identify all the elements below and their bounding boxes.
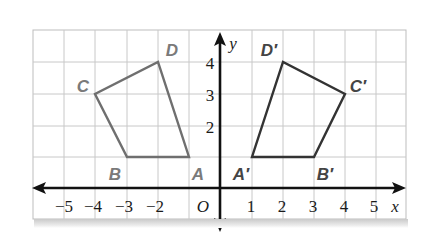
vertex-label-c-prime: C′ (350, 77, 367, 96)
x-tick-label: 1 (247, 197, 256, 216)
x-tick-label: −5 (55, 197, 73, 216)
y-tick-label: 4 (206, 54, 215, 73)
x-tick-label: 5 (370, 197, 379, 216)
y-tick-label: 3 (206, 86, 215, 105)
vertex-label-a: A (191, 165, 204, 184)
x-tick-label: 3 (309, 197, 318, 216)
vertex-label-c: C (77, 77, 90, 96)
grid-shadow (34, 219, 408, 228)
x-tick-label: 4 (340, 197, 349, 216)
coordinate-plane-figure: −5 −4 −3 −2 1 2 3 4 5 2 3 4 x y O A B C … (0, 0, 425, 236)
x-tick-label: −2 (146, 197, 164, 216)
x-axis-label: x (390, 197, 399, 216)
y-axis-label: y (227, 34, 237, 53)
x-tick-label: −4 (84, 197, 103, 216)
vertex-label-d-prime: D′ (261, 41, 278, 60)
x-tick-label: 2 (278, 197, 287, 216)
y-tick-labels: 2 3 4 (206, 54, 215, 137)
vertex-label-a-prime: A′ (232, 165, 250, 184)
vertex-label-b: B (109, 165, 121, 184)
vertex-label-b-prime: B′ (317, 165, 334, 184)
x-tick-label: −3 (115, 197, 133, 216)
vertex-label-d: D (166, 41, 178, 60)
coordinate-plane: −5 −4 −3 −2 1 2 3 4 5 2 3 4 x y O A B C … (0, 0, 425, 236)
origin-label: O (197, 197, 209, 216)
y-tick-label: 2 (206, 118, 215, 137)
